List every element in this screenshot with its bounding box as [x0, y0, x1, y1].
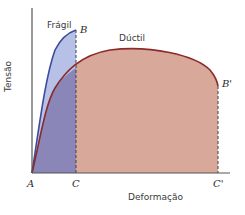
point-c-prime: C'	[213, 178, 223, 189]
point-c: C	[72, 178, 80, 189]
ductile-label: Dúctil	[119, 33, 145, 43]
y-axis-label: Tensão	[3, 61, 13, 92]
point-b: B	[80, 24, 87, 35]
x-axis-label: Deformação	[128, 192, 183, 202]
stress-strain-diagram: Tensão Deformação Frágil Dúctil B B' A C…	[0, 0, 245, 215]
point-b-prime: B'	[222, 78, 232, 89]
point-a: A	[27, 178, 34, 189]
brittle-label: Frágil	[47, 20, 71, 30]
